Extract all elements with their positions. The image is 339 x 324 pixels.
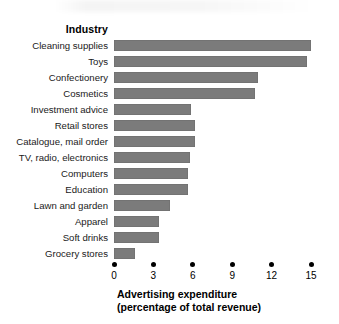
x-axis-tick-dot (269, 262, 274, 267)
bar (114, 200, 170, 211)
bar-category-label: Education (0, 184, 108, 195)
bar-track (114, 88, 335, 99)
bar-row: Investment advice (0, 103, 339, 119)
bar-category-label: Toys (0, 56, 108, 67)
bar (114, 72, 258, 83)
bar-track (114, 152, 335, 163)
bar-category-label: Computers (0, 168, 108, 179)
bar-track (114, 168, 335, 179)
bar-row: Grocery stores (0, 247, 339, 263)
bar-row: Cosmetics (0, 87, 339, 103)
bar-row: Education (0, 183, 339, 199)
bar-category-label: Grocery stores (0, 248, 108, 259)
bar-category-label: Cosmetics (0, 88, 108, 99)
x-axis-title: Advertising expenditure (percentage of t… (117, 288, 337, 314)
x-axis-tick-label: 15 (297, 270, 325, 281)
x-axis-title-line1: Advertising expenditure (117, 288, 337, 301)
bar-track (114, 216, 335, 227)
bar-track (114, 104, 335, 115)
x-axis-tick-dot (112, 262, 117, 267)
bar-category-label: Investment advice (0, 104, 108, 115)
x-axis-tick-label: 6 (179, 270, 207, 281)
bar-row: Toys (0, 55, 339, 71)
bar (114, 136, 195, 147)
bar (114, 248, 135, 259)
bar-row: Soft drinks (0, 231, 339, 247)
bar-track (114, 72, 335, 83)
bar (114, 168, 188, 179)
bar-track (114, 248, 335, 259)
bar-category-label: Catalogue, mail order (0, 136, 108, 147)
x-axis-tick-label: 12 (258, 270, 286, 281)
bar-row: Apparel (0, 215, 339, 231)
bar-category-label: Lawn and garden (0, 200, 108, 211)
bar (114, 40, 311, 51)
bar-category-label: Retail stores (0, 120, 108, 131)
x-axis-title-line2: (percentage of total revenue) (117, 301, 337, 314)
x-axis-tick-dot (230, 262, 235, 267)
bar-row: Lawn and garden (0, 199, 339, 215)
bar (114, 104, 191, 115)
category-axis-header: Industry (0, 23, 108, 35)
bar-row: Computers (0, 167, 339, 183)
bar-chart: Industry Cleaning suppliesToysConfection… (0, 0, 339, 324)
bar-track (114, 136, 335, 147)
x-axis-tick-dot (190, 262, 195, 267)
bar (114, 120, 195, 131)
bar-track (114, 120, 335, 131)
x-axis-tick-label: 9 (218, 270, 246, 281)
bar-row: TV, radio, electronics (0, 151, 339, 167)
x-axis-tick-label: 3 (139, 270, 167, 281)
bar-track (114, 56, 335, 67)
bar-row: Catalogue, mail order (0, 135, 339, 151)
bar (114, 184, 188, 195)
x-axis-tick-label: 0 (100, 270, 128, 281)
bar-track (114, 232, 335, 243)
bar-category-label: Cleaning supplies (0, 40, 108, 51)
bar-row: Cleaning supplies (0, 39, 339, 55)
bar-category-label: TV, radio, electronics (0, 152, 108, 163)
bar (114, 56, 307, 67)
bar-category-label: Soft drinks (0, 232, 108, 243)
x-axis-tick-dot (309, 262, 314, 267)
bar (114, 152, 190, 163)
scan-smudge (55, 0, 315, 12)
bar-row: Confectionery (0, 71, 339, 87)
bar-row: Retail stores (0, 119, 339, 135)
bar (114, 216, 159, 227)
bar (114, 88, 255, 99)
bar-track (114, 184, 335, 195)
bar-track (114, 40, 335, 51)
bar-category-label: Apparel (0, 216, 108, 227)
bar-track (114, 200, 335, 211)
bar-category-label: Confectionery (0, 72, 108, 83)
bar (114, 232, 159, 243)
x-axis-tick-dot (151, 262, 156, 267)
plot-area: Cleaning suppliesToysConfectioneryCosmet… (0, 39, 339, 263)
